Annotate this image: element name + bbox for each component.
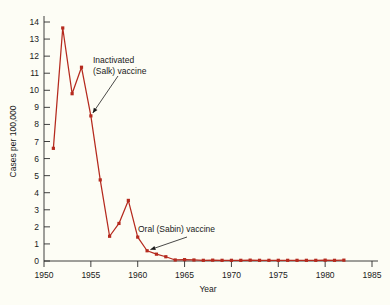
data-point-marker bbox=[61, 26, 64, 29]
y-tick-label: 0 bbox=[34, 256, 39, 266]
data-point-marker bbox=[80, 66, 83, 69]
polio-incidence-chart: 01234567891011121314 1950195519601965197… bbox=[0, 0, 390, 305]
annotation-label: Inactivated bbox=[93, 55, 134, 65]
x-tick-label: 1960 bbox=[128, 270, 147, 280]
x-axis-title: Year bbox=[199, 284, 216, 294]
data-point-marker bbox=[342, 259, 345, 262]
data-point-marker bbox=[108, 235, 111, 238]
annotation-label-line2: (Salk) vaccine bbox=[93, 66, 147, 76]
x-tick-label: 1980 bbox=[316, 270, 335, 280]
data-point-marker bbox=[333, 259, 336, 262]
data-point-marker bbox=[164, 255, 167, 258]
data-point-marker bbox=[145, 249, 148, 252]
x-tick-label: 1965 bbox=[175, 270, 194, 280]
x-tick-label: 1955 bbox=[81, 270, 100, 280]
y-tick-label: 10 bbox=[30, 85, 40, 95]
y-tick-label: 14 bbox=[30, 17, 40, 27]
annotation-arrowhead bbox=[93, 108, 98, 113]
data-point-marker bbox=[258, 259, 261, 262]
y-tick-label: 12 bbox=[30, 51, 40, 61]
annotation-arrowhead bbox=[150, 246, 155, 250]
data-point-marker bbox=[267, 259, 270, 262]
data-point-marker bbox=[277, 259, 280, 262]
data-point-marker bbox=[239, 259, 242, 262]
data-point-marker bbox=[324, 259, 327, 262]
data-point-marker bbox=[305, 259, 308, 262]
y-tick-label: 11 bbox=[30, 68, 39, 78]
data-point-marker bbox=[117, 222, 120, 225]
data-point-marker bbox=[99, 178, 102, 181]
data-point-marker bbox=[89, 114, 92, 117]
y-tick-label: 4 bbox=[34, 188, 39, 198]
annotation-label: Oral (Sabin) vaccine bbox=[138, 224, 215, 234]
data-point-marker bbox=[314, 259, 317, 262]
y-tick-label: 9 bbox=[34, 102, 39, 112]
data-point-marker bbox=[155, 253, 158, 256]
data-point-marker bbox=[192, 258, 195, 261]
data-point-marker bbox=[52, 147, 55, 150]
data-point-marker bbox=[174, 258, 177, 261]
data-point-marker bbox=[249, 259, 252, 262]
data-point-marker bbox=[71, 92, 74, 95]
y-tick-label: 6 bbox=[34, 154, 39, 164]
x-tick-label: 1975 bbox=[269, 270, 288, 280]
y-tick-label: 1 bbox=[34, 239, 39, 249]
y-tick-label: 2 bbox=[34, 222, 39, 232]
data-point-marker bbox=[136, 236, 139, 239]
x-tick-label: 1950 bbox=[35, 270, 54, 280]
data-point-marker bbox=[295, 259, 298, 262]
data-point-marker bbox=[202, 259, 205, 262]
y-tick-label: 5 bbox=[34, 171, 39, 181]
data-point-marker bbox=[230, 259, 233, 262]
annotation-arrow bbox=[93, 76, 118, 113]
y-tick-label: 3 bbox=[34, 205, 39, 215]
chart-plot-area: 01234567891011121314 1950195519601965197… bbox=[0, 0, 390, 305]
data-point-marker bbox=[286, 259, 289, 262]
y-tick-label: 8 bbox=[34, 119, 39, 129]
data-point-marker bbox=[183, 258, 186, 261]
x-axis-ticks: 19501955196019651970197519801985 bbox=[35, 261, 382, 280]
annotations-group: Inactivated(Salk) vaccineOral (Sabin) va… bbox=[93, 55, 215, 250]
y-tick-label: 13 bbox=[30, 34, 40, 44]
data-point-marker bbox=[220, 259, 223, 262]
data-point-marker bbox=[211, 259, 214, 262]
x-tick-label: 1985 bbox=[363, 270, 382, 280]
y-axis-title: Cases per 100,000 bbox=[8, 105, 18, 177]
data-point-marker bbox=[127, 199, 130, 202]
annotation-arrow bbox=[150, 237, 187, 250]
x-tick-label: 1970 bbox=[222, 270, 241, 280]
y-axis-ticks: 01234567891011121314 bbox=[30, 17, 50, 266]
y-tick-label: 7 bbox=[34, 137, 39, 147]
